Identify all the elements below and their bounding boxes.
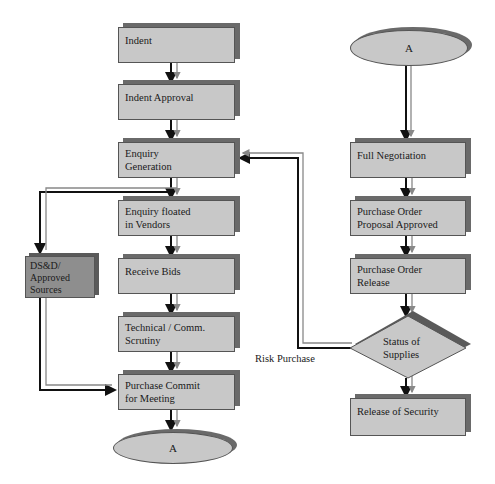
node-label: A bbox=[405, 42, 413, 54]
node-dsd-sources: DS&D/ Approved Sources bbox=[25, 256, 95, 298]
node-status-of-supplies: Status of Supplies bbox=[383, 335, 420, 361]
node-label-line: Generation bbox=[125, 160, 228, 173]
node-technical-scrutiny: Technical / Comm. Scrutiny bbox=[118, 316, 235, 352]
node-po-proposal-approved: Purchase Order Proposal Approved bbox=[350, 200, 466, 236]
node-label-line: Supplies bbox=[383, 348, 420, 361]
node-label: Receive Bids bbox=[125, 266, 181, 277]
node-label-line: Release bbox=[357, 276, 459, 289]
node-label-line: Scrutiny bbox=[125, 334, 228, 347]
node-indent-approval: Indent Approval bbox=[118, 84, 235, 120]
node-label-line: in Vendors bbox=[125, 218, 228, 231]
node-connector-a-top: A bbox=[350, 30, 468, 66]
node-label-line: Enquiry bbox=[125, 147, 228, 160]
node-label: Release of Security bbox=[357, 406, 439, 417]
node-enquiry-generation: Enquiry Generation bbox=[118, 142, 235, 178]
node-label-line: Technical / Comm. bbox=[125, 321, 228, 334]
node-full-negotiation: Full Negotiation bbox=[350, 142, 466, 178]
node-label-line: for Meeting bbox=[125, 392, 228, 405]
node-label-line: Purchase Commit bbox=[125, 379, 228, 392]
node-label-line: Sources bbox=[30, 284, 90, 296]
node-label: Indent bbox=[125, 35, 152, 46]
node-label-line: Approved bbox=[30, 272, 90, 284]
node-label-line: DS&D/ bbox=[30, 260, 90, 272]
node-release-of-security: Release of Security bbox=[350, 398, 466, 436]
node-label-line: Purchase Order bbox=[357, 263, 459, 276]
node-label-line: Enquiry floated bbox=[125, 205, 228, 218]
flowchart-canvas: Indent Indent Approval Enquiry Generatio… bbox=[0, 0, 495, 484]
node-label-line: Purchase Order bbox=[357, 205, 459, 218]
node-receive-bids: Receive Bids bbox=[118, 258, 235, 294]
node-label: Full Negotiation bbox=[357, 150, 426, 161]
node-label: Indent Approval bbox=[125, 92, 194, 103]
node-connector-a-bottom: A bbox=[113, 432, 233, 464]
node-label-line: Proposal Approved bbox=[357, 218, 459, 231]
edge-label-risk-purchase: Risk Purchase bbox=[255, 353, 315, 364]
node-enquiry-floated: Enquiry floated in Vendors bbox=[118, 200, 235, 236]
node-label: A bbox=[169, 442, 177, 454]
node-label-line: Status of bbox=[383, 335, 420, 348]
node-po-release: Purchase Order Release bbox=[350, 258, 466, 294]
node-purchase-commit: Purchase Commit for Meeting bbox=[118, 374, 235, 410]
node-indent: Indent bbox=[118, 27, 235, 63]
